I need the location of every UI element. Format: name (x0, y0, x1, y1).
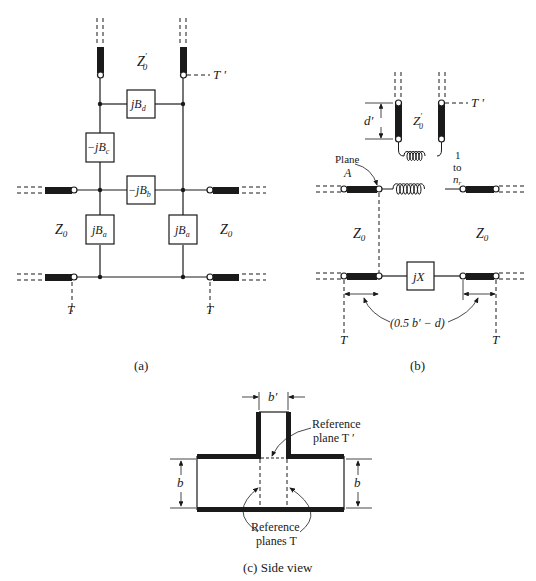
ratio-to-label: to (453, 161, 462, 173)
z0-right-label-b: Z0 (476, 226, 489, 243)
jX-label: jX (411, 269, 426, 284)
plane-a-label: A (343, 166, 352, 180)
caption-a: (a) (134, 358, 148, 373)
z0-right-label: Z0 (220, 222, 233, 239)
b-left-label: b (177, 475, 184, 490)
panel-c-labels: b′ Reference plane T ′ b b Reference pla… (177, 389, 361, 575)
panel-b-labels: d′ Z′0 T ′ Plane A 1 to nr Z0 Z0 jX (0.5… (335, 95, 500, 373)
t-right-label-b: T (492, 332, 500, 347)
z0-left-label: Z0 (55, 222, 68, 239)
ratio-n-label: nr (453, 173, 462, 187)
waveguide-tee-equivalent-circuits: Z′0 T ′ jBd −jBc −jBb jBa jBa Z0 Z0 T T … (0, 0, 536, 581)
t-left-label: T (67, 302, 75, 317)
z0-left-label-b: Z0 (353, 226, 366, 243)
caption-b: (b) (410, 358, 425, 373)
panel-c-side-view (170, 392, 372, 532)
z0-prime-label-b: Z′0 (413, 112, 423, 131)
ref-planes-t-line1: Reference (251, 520, 300, 534)
t-prime-label: T ′ (213, 67, 226, 82)
stub-line-left (97, 47, 104, 73)
b-right-label: b (354, 475, 361, 490)
b-prime-label: b′ (268, 389, 278, 404)
ref-planes-t-line2: planes T (256, 534, 297, 548)
caption-c: (c) Side view (243, 560, 313, 575)
plane-label: Plane (335, 153, 360, 165)
ratio-1-label: 1 (455, 149, 461, 161)
t-prime-label-b: T ′ (471, 95, 484, 110)
offset-label: (0.5 b′ − d) (390, 316, 445, 330)
ref-plane-t-prime-line2: plane T ′ (313, 431, 355, 445)
d-prime-label: d′ (364, 113, 374, 128)
t-left-label-b: T (340, 332, 348, 347)
z0-prime-label: Z′0 (137, 51, 148, 72)
stub-line-right (180, 47, 187, 73)
ref-plane-t-prime-line1: Reference (312, 417, 361, 431)
t-right-label: T (206, 302, 214, 317)
